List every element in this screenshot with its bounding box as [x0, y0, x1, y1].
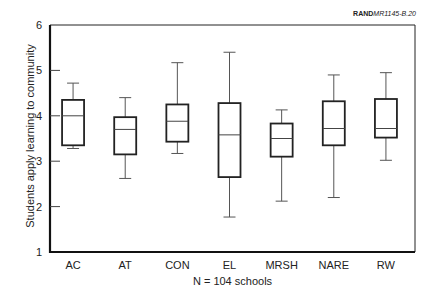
x-category-label: NARE — [319, 259, 350, 271]
y-tick-label: 5 — [36, 64, 42, 76]
y-tick-label: 6 — [36, 19, 42, 31]
y-tick-label: 3 — [36, 155, 42, 167]
y-tick-label: 2 — [36, 201, 42, 213]
x-axis-label: N = 104 schools — [50, 275, 415, 287]
box-iqr — [62, 100, 84, 145]
box-plot: 123456ACATCONELMRSHNARERW — [0, 0, 430, 300]
box-iqr — [375, 99, 397, 138]
box-iqr — [271, 124, 293, 157]
x-category-label: CON — [165, 259, 190, 271]
box-iqr — [166, 104, 188, 141]
x-category-label: MRSH — [265, 259, 297, 271]
box-iqr — [323, 101, 345, 145]
y-tick-label: 1 — [36, 246, 42, 258]
x-category-label: EL — [223, 259, 236, 271]
y-axis-label: Students apply learning to community — [24, 36, 36, 236]
y-tick-label: 4 — [36, 110, 42, 122]
box-iqr — [219, 103, 241, 177]
x-category-label: AC — [65, 259, 80, 271]
x-category-label: AT — [119, 259, 133, 271]
x-category-label: RW — [377, 259, 396, 271]
box-iqr — [114, 117, 136, 154]
